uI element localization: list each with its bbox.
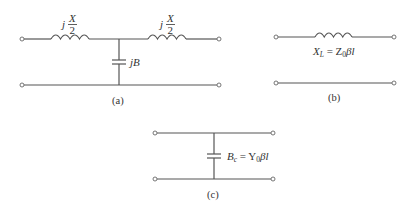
- label-left-inductor: j X 2: [60, 12, 77, 36]
- svg-text:2: 2: [168, 24, 174, 36]
- inductor-right-icon: [148, 35, 186, 39]
- label-xl-equation: XL = Z0βl: [312, 45, 355, 59]
- terminal-icon: [271, 177, 275, 181]
- terminal-icon: [274, 81, 278, 85]
- label-bc-equation: Bc = Y0βl: [227, 150, 269, 164]
- terminal-icon: [153, 131, 157, 135]
- terminal-icon: [20, 83, 24, 87]
- svg-text:j: j: [60, 18, 65, 30]
- terminal-icon: [217, 37, 221, 41]
- svg-text:2: 2: [70, 24, 76, 36]
- label-right-inductor: j X 2: [158, 12, 175, 36]
- panel-b-series-inductor: XL = Z0βl (b): [274, 33, 396, 104]
- terminal-icon: [217, 83, 221, 87]
- label-shunt-susceptance: jB: [128, 56, 140, 68]
- circuit-diagram: j X 2 j X 2 jB (a) XL = Z0βl (b): [0, 0, 419, 211]
- caption-b: (b): [328, 92, 341, 104]
- terminal-icon: [392, 81, 396, 85]
- panel-a-t-network: j X 2 j X 2 jB (a): [20, 12, 221, 107]
- terminal-icon: [392, 35, 396, 39]
- svg-text:j: j: [158, 18, 163, 30]
- panel-c-shunt-capacitor: Bc = Y0βl (c): [153, 131, 275, 201]
- svg-text:X: X: [166, 12, 175, 24]
- terminal-icon: [274, 35, 278, 39]
- caption-c: (c): [207, 189, 219, 201]
- terminal-icon: [20, 37, 24, 41]
- inductor-icon: [315, 33, 352, 37]
- terminal-icon: [271, 131, 275, 135]
- svg-text:X: X: [68, 12, 77, 24]
- terminal-icon: [153, 177, 157, 181]
- inductor-left-icon: [51, 35, 89, 39]
- caption-a: (a): [112, 95, 124, 107]
